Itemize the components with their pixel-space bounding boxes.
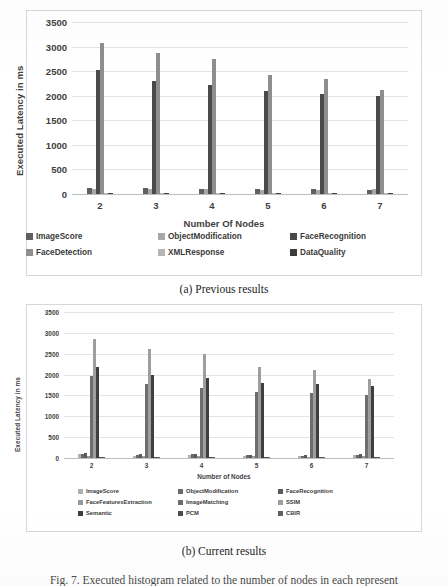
y-axis-title-b: Executed Latency in ms	[14, 377, 21, 452]
legend-item: ImageMatching	[178, 499, 278, 505]
legend-item: PCM	[178, 510, 278, 516]
subcaption-current-results: (b) Current results	[0, 545, 448, 557]
bar-semantic-4	[206, 378, 209, 458]
bar-group	[339, 312, 394, 458]
bar-semantic-5	[261, 383, 264, 458]
figure-page: Executed Latency in ms 05001000150020002…	[0, 0, 448, 586]
y-axis-tick-label: 2500	[45, 350, 59, 357]
y-axis-tick-label: 2000	[46, 90, 67, 101]
bar-dataquality-7	[388, 193, 392, 194]
subcaption-previous-results: (a) Previous results	[0, 283, 448, 295]
x-axis-baseline	[72, 194, 408, 195]
legend-label: Semantic	[86, 510, 112, 516]
bar-group	[174, 312, 229, 458]
y-axis-tick-label: 3000	[45, 329, 59, 336]
legend-swatch-icon	[278, 511, 283, 516]
legend-label: CBIR	[286, 510, 300, 516]
figure-caption: Fig. 7. Executed histogram related to th…	[0, 572, 448, 586]
legend-label: ObjectModification	[186, 488, 238, 494]
bar-group	[352, 22, 408, 194]
bar-cbir-2	[102, 457, 105, 458]
y-axis-tick-label: 2500	[46, 66, 67, 77]
x-axis-tick-label: 2	[64, 462, 119, 469]
x-axis-tick-label: 5	[229, 462, 284, 469]
legend-label: FaceRecognition	[300, 232, 366, 241]
x-axis-tick-label: 7	[352, 200, 408, 211]
bar-group	[240, 22, 296, 194]
y-axis-tick-label: 3500	[46, 17, 67, 28]
x-axis-tick-label: 4	[184, 200, 240, 211]
legend-label: PCM	[186, 510, 199, 516]
bar-cbir-6	[322, 457, 325, 458]
x-axis-title-a: Number Of Nodes	[0, 218, 448, 229]
legend-b: ImageScoreObjectModificationFaceRecognit…	[78, 488, 378, 516]
legend-item: ImageScore	[78, 488, 178, 494]
y-axis-tick-label: 1000	[46, 139, 67, 150]
bar-facedetection-2	[100, 43, 104, 194]
bar-dataquality-3	[164, 193, 168, 194]
bar-group	[184, 22, 240, 194]
legend-label: SSIM	[286, 499, 300, 505]
legend-label: FaceFeaturesExtraction	[86, 499, 152, 505]
legend-a: ImageScoreObjectModificationFaceRecognit…	[26, 232, 422, 257]
legend-swatch-icon	[178, 511, 183, 516]
x-axis-tick-label: 5	[240, 200, 296, 211]
bar-dataquality-6	[332, 193, 336, 194]
y-axis-tick-label: 500	[51, 164, 67, 175]
x-axis-tick-label: 4	[174, 462, 229, 469]
legend-swatch-icon	[290, 249, 297, 256]
legend-swatch-icon	[78, 500, 83, 505]
legend-swatch-icon	[78, 511, 83, 516]
legend-swatch-icon	[78, 489, 83, 494]
legend-swatch-icon	[278, 500, 283, 505]
legend-item: ObjectModification	[178, 488, 278, 494]
legend-item: ImageScore	[26, 232, 158, 241]
bar-cbir-4	[212, 457, 215, 458]
legend-swatch-icon	[158, 233, 165, 240]
y-axis-tick-label: 0	[62, 189, 67, 200]
y-axis-tick-label: 0	[55, 455, 59, 462]
bar-facedetection-3	[156, 53, 160, 194]
bar-cbir-5	[267, 457, 270, 458]
legend-swatch-icon	[26, 233, 33, 240]
bar-group	[119, 312, 174, 458]
y-axis-tick-label: 1500	[45, 392, 59, 399]
legend-swatch-icon	[278, 489, 283, 494]
legend-swatch-icon	[178, 500, 183, 505]
bar-semantic-6	[316, 384, 319, 458]
plot-area-a: 0500100015002000250030003500234567	[72, 22, 408, 194]
legend-label: FaceDetection	[36, 248, 92, 257]
legend-item: CBIR	[278, 510, 378, 516]
legend-swatch-icon	[26, 249, 33, 256]
bar-cbir-3	[157, 457, 160, 458]
legend-swatch-icon	[290, 233, 297, 240]
legend-label: DataQuality	[300, 248, 346, 257]
legend-label: ImageScore	[36, 232, 82, 241]
x-axis-tick-label: 6	[284, 462, 339, 469]
plot-area-b: 0500100015002000250030003500234567	[64, 312, 394, 458]
legend-item: FaceFeaturesExtraction	[78, 499, 178, 505]
x-axis-tick-label: 7	[339, 462, 394, 469]
legend-item: ObjectModification	[158, 232, 290, 241]
y-axis-tick-label: 1000	[45, 413, 59, 420]
bar-facedetection-7	[380, 90, 384, 194]
bar-semantic-3	[151, 375, 154, 458]
x-axis-tick-label: 3	[128, 200, 184, 211]
bar-facedetection-6	[324, 79, 328, 194]
legend-label: ImageMatching	[186, 499, 228, 505]
y-axis-tick-label: 500	[48, 434, 59, 441]
x-axis-tick-label: 6	[296, 200, 352, 211]
y-axis-title-a: Executed Latency in ms	[14, 66, 25, 176]
legend-item: Semantic	[78, 510, 178, 516]
legend-label: ObjectModification	[168, 232, 242, 241]
legend-swatch-icon	[158, 249, 165, 256]
bar-dataquality-4	[220, 193, 224, 194]
y-axis-tick-label: 1500	[46, 115, 67, 126]
y-axis-tick-label: 2000	[45, 371, 59, 378]
legend-label: ImageScore	[86, 488, 119, 494]
legend-item: SSIM	[278, 499, 378, 505]
bar-group	[128, 22, 184, 194]
bar-cbir-7	[377, 457, 380, 458]
bar-dataquality-5	[276, 193, 280, 194]
chart-panel-previous-results: Executed Latency in ms 05001000150020002…	[0, 0, 448, 284]
